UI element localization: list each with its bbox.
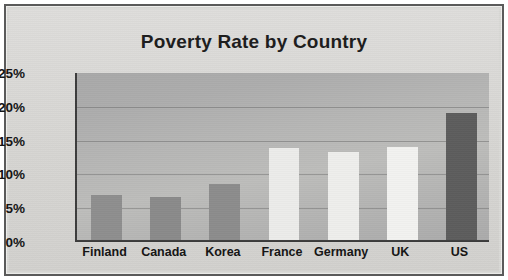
chart-title: Poverty Rate by Country <box>9 31 499 53</box>
y-axis-tick-label: 10% <box>0 167 25 182</box>
bar <box>387 147 418 240</box>
chart-frame: Poverty Rate by Country 0%5%10%15%20%25%… <box>4 4 504 276</box>
y-axis-tick-label: 25% <box>0 66 25 81</box>
bar <box>269 148 300 240</box>
bar <box>150 197 181 240</box>
y-axis-tick-label: 15% <box>0 133 25 148</box>
gridline <box>77 141 489 142</box>
y-axis-tick-label: 0% <box>0 235 25 250</box>
x-axis-tick-label: Finland <box>75 245 134 259</box>
x-axis-tick-label: Germany <box>312 245 371 259</box>
x-axis-tick-label: US <box>430 245 489 259</box>
bar <box>209 184 240 240</box>
y-axis-tick-label: 20% <box>0 99 25 114</box>
plot-area <box>75 73 489 242</box>
bar <box>328 152 359 240</box>
x-axis-tick-label: Canada <box>134 245 193 259</box>
x-axis-tick-label: France <box>252 245 311 259</box>
x-axis-tick-label: UK <box>371 245 430 259</box>
y-axis-tick-label: 5% <box>0 201 25 216</box>
gridline <box>77 107 489 108</box>
x-axis-tick-label: Korea <box>193 245 252 259</box>
bar <box>446 113 477 240</box>
chart-canvas: Poverty Rate by Country 0%5%10%15%20%25%… <box>9 9 499 271</box>
bar <box>91 195 122 240</box>
